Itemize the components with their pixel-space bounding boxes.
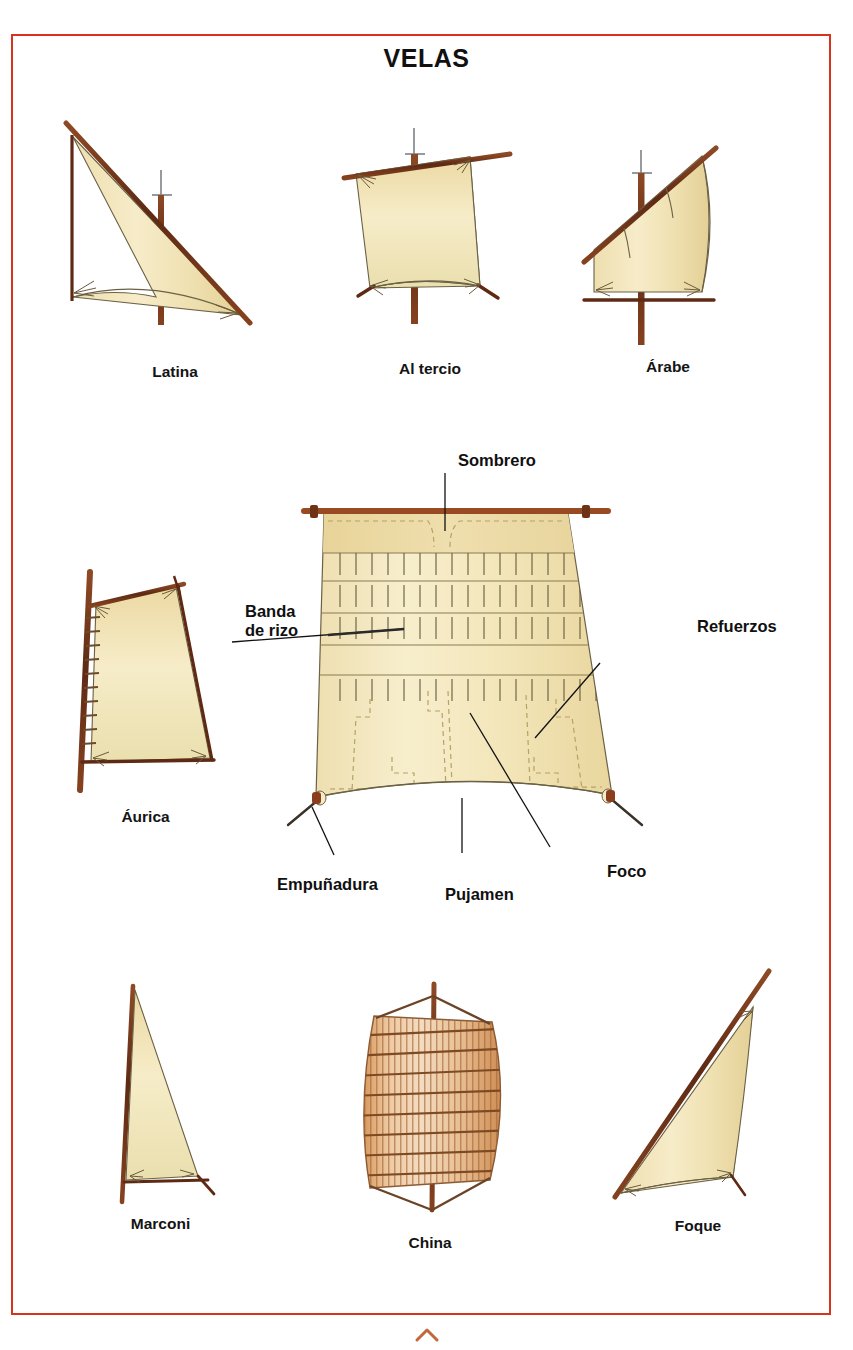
page-caret-icon [414, 1327, 440, 1343]
caption-al-tercio: Al tercio [318, 360, 542, 378]
caption-china: China [335, 1234, 525, 1252]
label-foco: Foco [607, 862, 646, 881]
main-sail-yard-band-left [310, 505, 318, 518]
caption-foque: Foque [603, 1217, 793, 1235]
caption-marconi: Marconi [68, 1215, 253, 1233]
main-sail-body [316, 513, 612, 797]
figure-foque: Foque [605, 965, 795, 1215]
aurica-sail [91, 587, 210, 762]
caption-latina: Latina [60, 363, 290, 381]
marconi-sail [126, 990, 198, 1180]
illustration-plate: VELAS [0, 0, 853, 1350]
main-sail-yard-band-right [582, 505, 590, 518]
label-sombrero: Sombrero [458, 451, 536, 470]
caption-arabe: Árabe [568, 358, 768, 376]
label-banda-de-rizo-line1: Banda [245, 602, 295, 620]
main-sail-grommet-left [312, 792, 321, 804]
figure-arabe: Árabe [568, 140, 778, 355]
figure-latina: Latina [60, 115, 290, 360]
page-title: VELAS [0, 44, 853, 73]
main-sail-grommet-right [606, 790, 615, 802]
label-pujamen: Pujamen [445, 885, 514, 904]
figure-china: China [340, 978, 530, 1218]
aurica-boom [82, 760, 214, 762]
label-empunadura: Empuñadura [277, 875, 378, 894]
figure-main-sail: Sombrero Banda de rizo Refuerzos Empuñad… [282, 495, 722, 865]
figure-al-tercio: Al tercio [330, 128, 530, 358]
arabe-sail [594, 156, 709, 292]
china-sail-ribs [350, 1008, 520, 1198]
foque-clew-spar [731, 1175, 745, 1195]
label-refuerzos: Refuerzos [697, 617, 777, 636]
al-tercio-boom-right [478, 285, 498, 298]
caption-aurica: Áurica [53, 808, 238, 826]
label-banda-de-rizo-line2: de rizo [245, 621, 298, 639]
figure-marconi: Marconi [90, 980, 230, 1210]
figure-aurica: Áurica [58, 562, 243, 802]
label-banda-de-rizo: Banda de rizo [245, 602, 298, 641]
